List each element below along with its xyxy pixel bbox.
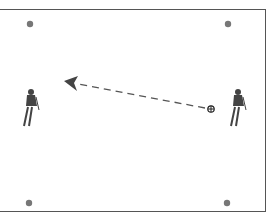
ball-icon [208, 106, 214, 112]
player-left-icon [24, 89, 39, 126]
pass-arrow-line [78, 84, 205, 108]
cone-top-left [27, 21, 33, 27]
arrowhead-icon [64, 76, 78, 91]
cone-top-right [225, 21, 231, 27]
cone-bottom-left [26, 200, 32, 206]
cone-bottom-right [224, 200, 230, 206]
player-right-icon [231, 89, 246, 126]
drill-diagram [0, 0, 279, 221]
cones [26, 21, 231, 206]
